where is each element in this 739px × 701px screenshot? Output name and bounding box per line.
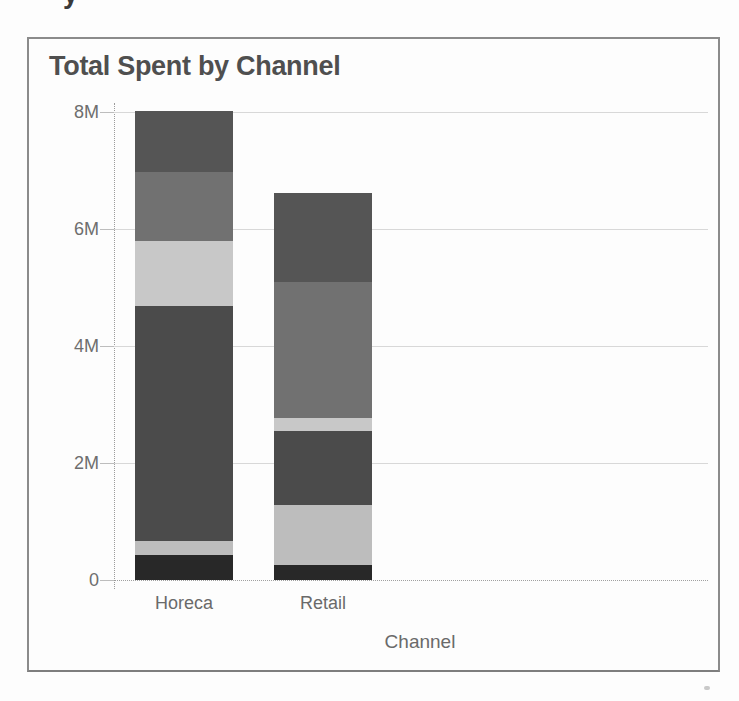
bar-retail-segment-2[interactable] xyxy=(274,505,372,565)
y-tick-label-0: 0 xyxy=(29,570,99,590)
y-tick-2M xyxy=(100,463,114,464)
bar-horeca-segment-4[interactable] xyxy=(135,241,233,307)
y-tick-8M xyxy=(100,112,114,113)
bar-retail-segment-6[interactable] xyxy=(274,193,372,282)
bar-horeca[interactable] xyxy=(135,111,233,580)
y-tick-0 xyxy=(100,580,114,581)
x-category-label-retail: Retail xyxy=(300,593,346,614)
chart-card: Total Spent by Channel 02M4M6M8M HorecaR… xyxy=(27,37,720,672)
y-tick-label-6M: 6M xyxy=(29,219,99,239)
x-axis-title: Channel xyxy=(385,631,456,653)
bar-horeca-segment-1[interactable] xyxy=(135,555,233,580)
bar-retail-segment-3[interactable] xyxy=(274,431,372,505)
book-scan-page: y Total Spent by Channel 02M4M6M8M Horec… xyxy=(0,0,739,701)
plot-area xyxy=(114,99,708,599)
y-tick-6M xyxy=(100,229,114,230)
scan-speck xyxy=(704,686,710,690)
clipped-glyph: y xyxy=(63,0,78,10)
x-axis-line xyxy=(112,580,708,581)
bar-retail-segment-4[interactable] xyxy=(274,418,372,432)
chart-title: Total Spent by Channel xyxy=(49,51,340,82)
y-tick-label-8M: 8M xyxy=(29,102,99,122)
bar-retail-segment-5[interactable] xyxy=(274,282,372,418)
clipped-text-fragment: y xyxy=(57,0,97,11)
bar-retail-segment-1[interactable] xyxy=(274,565,372,580)
y-tick-label-2M: 2M xyxy=(29,453,99,473)
y-tick-label-4M: 4M xyxy=(29,336,99,356)
bar-horeca-segment-5[interactable] xyxy=(135,172,233,241)
x-category-label-horeca: Horeca xyxy=(155,593,213,614)
bar-horeca-segment-6[interactable] xyxy=(135,111,233,171)
bar-retail[interactable] xyxy=(274,193,372,580)
bar-horeca-segment-3[interactable] xyxy=(135,306,233,541)
bar-horeca-segment-2[interactable] xyxy=(135,541,233,555)
y-tick-4M xyxy=(100,346,114,347)
